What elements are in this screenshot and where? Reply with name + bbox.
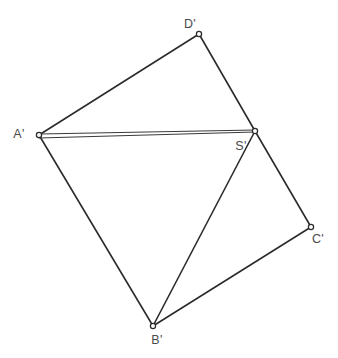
edge-s-c (255, 131, 311, 227)
vertex-marker-c (308, 224, 313, 229)
vertex-label-c: C' (312, 232, 324, 246)
vertex-label-a: A' (13, 127, 24, 141)
vertex-label-d: D' (184, 17, 196, 31)
edge-d-s (199, 34, 255, 131)
edge-s-b (153, 131, 255, 326)
vertex-marker-a (36, 132, 41, 137)
edge-c-b (153, 227, 311, 326)
geometry-figure: A' B' C' D' S' (0, 0, 338, 358)
edge-a-d (39, 34, 199, 135)
vertex-label-b: B' (151, 333, 162, 347)
vertex-marker-d (196, 31, 201, 36)
vertex-label-s: S' (235, 139, 246, 153)
vertex-marker-b (150, 323, 155, 328)
edge-b-a (39, 135, 153, 326)
figure-canvas: A' B' C' D' S' (0, 0, 338, 358)
vertex-marker-s (252, 128, 257, 133)
